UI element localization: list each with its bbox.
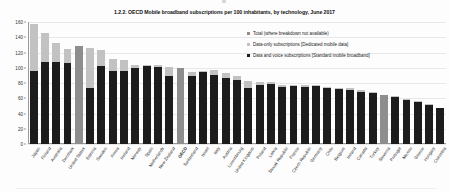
bar-segment-data-and-voice — [256, 85, 264, 144]
bar-segment-data-only — [120, 60, 128, 71]
bar-segment-data-only — [290, 85, 298, 87]
chart-title: 1.2.2. OECD Mobile broadband subscriptio… — [0, 9, 449, 15]
x-axis-tick-label: Israel — [200, 146, 210, 157]
bar-segment-data-and-voice — [154, 67, 162, 144]
bar-group[interactable] — [75, 22, 83, 144]
x-axis-tick-label: Canada — [356, 146, 369, 161]
legend-item[interactable]: Data and voice subscriptions [Standard m… — [247, 50, 447, 61]
bar-segment-data-and-voice — [64, 63, 72, 144]
bar-group[interactable] — [188, 22, 196, 144]
bar-segment-data-only — [131, 65, 139, 67]
bar-group[interactable] — [165, 22, 173, 144]
bar-segment-data-and-voice — [120, 71, 128, 144]
bar-group[interactable] — [30, 22, 38, 144]
bar-segment-data-only — [109, 59, 117, 70]
chart-legend: Total (where breakdown not available)Dat… — [247, 28, 447, 61]
bar-segment-data-and-voice — [323, 88, 331, 144]
bar-segment-data-only — [143, 65, 151, 66]
y-axis-tick-mark — [24, 52, 26, 53]
bar-segment-data-and-voice — [301, 87, 309, 144]
y-axis-tick-label: 160 — [15, 20, 23, 25]
bar-segment-data-and-voice — [244, 88, 252, 144]
bar-segment-data-and-voice — [143, 66, 151, 144]
bar-group[interactable] — [52, 22, 60, 144]
bar-segment-data-and-voice — [30, 71, 38, 144]
bar-segment-data-and-voice — [233, 80, 241, 144]
bar-group[interactable] — [109, 22, 117, 144]
y-axis-tick-mark — [24, 98, 26, 99]
bar-segment-data-and-voice — [357, 92, 365, 144]
bar-group[interactable] — [86, 22, 94, 144]
bar-group[interactable] — [131, 22, 139, 144]
bar-group[interactable] — [120, 22, 128, 144]
y-axis-tick-label: 120 — [15, 50, 23, 55]
legend-label: Data and voice subscriptions [Standard m… — [253, 53, 370, 58]
bar-segment-data-only — [199, 71, 207, 72]
y-axis-tick-mark — [24, 37, 26, 38]
bar-segment-data-and-voice — [436, 108, 444, 144]
chart-figure: 1.2.2. OECD Mobile broadband subscriptio… — [0, 0, 449, 192]
legend-item[interactable]: Total (where breakdown not available) — [247, 28, 447, 39]
legend-label: Total (where breakdown not available) — [253, 31, 329, 36]
y-axis-tick-label: 80 — [18, 81, 23, 86]
x-axis-tick-label: Chile — [325, 146, 335, 157]
bar-segment-data-only — [414, 101, 422, 102]
bar-group[interactable] — [210, 22, 218, 144]
bar-group[interactable] — [41, 22, 49, 144]
x-axis-tick-label: Belgium — [333, 146, 346, 162]
bar-segment-data-and-voice — [41, 62, 49, 144]
legend-item[interactable]: Data-only subscriptions [Dedicated mobil… — [247, 39, 447, 50]
bar-segment-total — [380, 95, 388, 144]
bar-group[interactable] — [97, 22, 105, 144]
bar-segment-data-only — [369, 92, 377, 93]
x-axis-labels: JapanFinlandAustraliaDenmarkUnited State… — [28, 146, 446, 192]
x-axis-tick-label: Italy — [213, 146, 222, 155]
bar-segment-data-and-voice — [425, 104, 433, 144]
y-axis-tick-label: 100 — [15, 65, 23, 70]
bar-segment-data-only — [165, 67, 173, 76]
page-scan-artifact — [222, 0, 226, 3]
bar-segment-data-only — [425, 104, 433, 105]
bar-group[interactable] — [154, 22, 162, 144]
x-axis-tick-label: Mexico — [402, 146, 414, 160]
bar-segment-data-only — [86, 48, 94, 88]
bar-segment-data-only — [52, 43, 60, 61]
y-axis-tick-mark — [24, 67, 26, 68]
bar-segment-data-only — [97, 50, 105, 66]
bar-group[interactable] — [64, 22, 72, 144]
bar-segment-data-and-voice — [97, 66, 105, 144]
bar-segment-data-and-voice — [391, 97, 399, 144]
bar-segment-data-only — [323, 87, 331, 88]
y-axis-tick-label: 0 — [20, 142, 23, 147]
bar-segment-data-only — [267, 82, 275, 84]
legend-swatch-icon — [247, 43, 250, 46]
bar-segment-total — [177, 68, 185, 144]
bar-segment-data-and-voice — [312, 85, 320, 144]
y-axis-tick-mark — [24, 144, 26, 145]
bar-segment-data-and-voice — [222, 78, 230, 144]
bar-group[interactable] — [222, 22, 230, 144]
bar-segment-data-only — [154, 65, 162, 67]
bar-segment-data-only — [222, 73, 230, 78]
bar-segment-data-and-voice — [86, 88, 94, 144]
bar-segment-data-only — [210, 70, 218, 75]
bar-segment-data-and-voice — [165, 76, 173, 144]
y-axis: 020406080100120140160 — [0, 22, 26, 144]
y-axis-tick-mark — [24, 22, 26, 23]
bar-segment-data-and-voice — [199, 72, 207, 144]
bar-segment-data-and-voice — [52, 62, 60, 144]
bar-segment-data-and-voice — [290, 86, 298, 144]
bar-segment-data-and-voice — [109, 71, 117, 144]
x-axis-tick-label: Norway — [130, 146, 142, 161]
bar-segment-data-only — [188, 72, 196, 77]
bar-group[interactable] — [177, 22, 185, 144]
bar-group[interactable] — [233, 22, 241, 144]
bar-segment-data-and-voice — [188, 76, 196, 144]
bar-segment-data-and-voice — [346, 90, 354, 144]
bar-segment-data-and-voice — [210, 75, 218, 144]
bar-group[interactable] — [143, 22, 151, 144]
gridline — [28, 144, 446, 145]
bar-group[interactable] — [199, 22, 207, 144]
bar-segment-total — [75, 46, 83, 144]
bar-segment-data-only — [233, 76, 241, 80]
